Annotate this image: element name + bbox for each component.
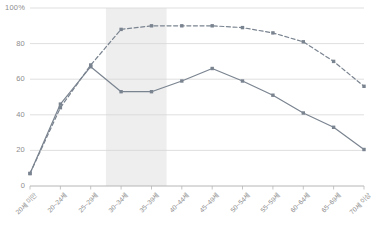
data-point-marker [241,79,244,82]
y-axis-tick-label: 0 [0,182,25,190]
series-line-dashed-series [30,26,364,174]
highlight-band-group [106,8,167,186]
data-point-marker [302,111,305,114]
data-point-marker [271,31,274,34]
y-axis-tick-label: 100% [0,4,25,12]
series-group [28,24,365,175]
data-point-marker [28,172,31,175]
data-point-marker [119,28,122,31]
y-axis-tick-label: 20 [0,146,25,154]
data-point-marker [59,106,62,109]
y-axis-tick-label: 60 [0,75,25,83]
data-point-marker [362,85,365,88]
data-point-marker [89,63,92,66]
data-point-marker [332,60,335,63]
y-axis-tick-label: 40 [0,111,25,119]
data-point-marker [241,26,244,29]
data-point-marker [271,94,274,97]
y-axis-tick-label: 80 [0,40,25,48]
data-point-marker [332,126,335,129]
data-point-marker [180,79,183,82]
data-point-marker [180,24,183,27]
data-point-marker [211,24,214,27]
x-axis-ticks [30,186,364,190]
data-point-marker [211,67,214,70]
series-line-solid-series [30,67,364,174]
data-point-marker [150,90,153,93]
chart-container: 020406080100% 20세 미만20~24세25~29세30~34세35… [0,0,378,231]
highlight-band [106,8,167,186]
data-point-marker [362,148,365,151]
data-point-marker [119,90,122,93]
data-point-marker [302,40,305,43]
data-point-marker [150,24,153,27]
